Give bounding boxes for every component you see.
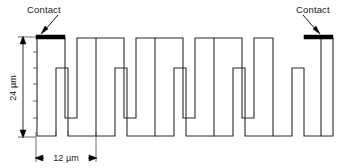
horizontal-scale-ticks — [56, 131, 68, 136]
contact-pad-left — [36, 35, 65, 39]
contact-label-right: Contact — [296, 4, 330, 15]
horizontal-dimension-label: 12 µm — [53, 153, 79, 163]
contact-label-left: Contact — [27, 4, 61, 15]
vertical-dimension-label: 24 µm — [8, 75, 18, 101]
vertical-dimension-group: 24 µm — [8, 36, 38, 138]
serpentine-conductor — [37, 38, 321, 136]
contact-pad-left-group — [36, 35, 65, 39]
figure-container: Contact Contact 24 µm — [0, 0, 346, 168]
serpentine-segment-1 — [37, 38, 96, 136]
contact-pad-right-group — [304, 35, 333, 136]
serpentine-segment-2 — [96, 38, 155, 136]
serpentine-segment-right-terminal — [321, 38, 333, 136]
leader-right-group — [303, 15, 320, 34]
leader-left-group — [41, 15, 58, 34]
contact-pad-right — [304, 35, 333, 39]
serpentine-segment-5 — [273, 38, 321, 136]
serpentine-segment-4 — [214, 38, 273, 136]
serpentine-diagram: Contact Contact 24 µm — [0, 0, 346, 168]
serpentine-segment-3 — [155, 38, 214, 136]
